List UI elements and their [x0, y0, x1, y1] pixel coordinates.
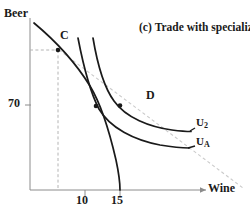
- data-point-production-tangency: [94, 104, 99, 109]
- curve-label-u2-subscript: 2: [204, 121, 208, 130]
- panel-caption: (c) Trade with specialization in beer: [139, 20, 250, 35]
- u2-label-leader: [190, 128, 195, 131]
- panel-caption-tag: (c): [139, 20, 152, 35]
- curve-label-u2-base: U: [196, 116, 204, 128]
- curve-label-u2: U2: [196, 117, 208, 129]
- point-label-d: D: [146, 89, 155, 102]
- panel-caption-text: Trade with specialization in beer: [155, 20, 250, 35]
- curve-label-ua-base: U: [196, 135, 204, 147]
- point-label-c: C: [60, 29, 69, 42]
- x-tick-label-15: 15: [111, 194, 123, 207]
- ua-label-leader: [188, 146, 195, 148]
- x-axis-label: Wine: [208, 182, 235, 195]
- curve-label-ua: UA: [196, 136, 210, 148]
- data-point-d: [118, 103, 123, 108]
- y-tick-label-70: 70: [8, 97, 20, 110]
- curve-label-ua-subscript: A: [204, 140, 210, 149]
- x-axis-arrowhead: [200, 187, 206, 192]
- y-axis-label: Beer: [4, 7, 28, 20]
- trade-price-line: [59, 50, 243, 188]
- ppf-curve: [34, 23, 120, 190]
- x-tick-label-10: 10: [76, 194, 88, 207]
- data-point-c: [56, 48, 61, 53]
- figure-panel-c: Beer Wine 70 10 15 C D U2 UA (c) Trade w…: [0, 0, 250, 222]
- indifference-curve-u2: [93, 38, 191, 132]
